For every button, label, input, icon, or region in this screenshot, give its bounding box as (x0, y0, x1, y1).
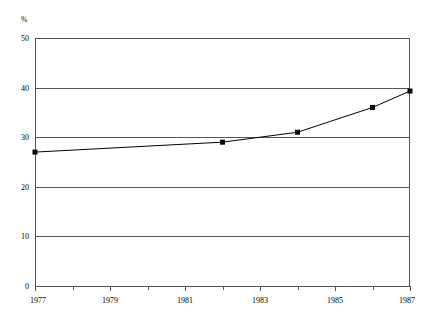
x-tick-label-1979: 1979 (102, 296, 118, 305)
y-tick-label-50: 50 (21, 34, 29, 43)
x-tick-label-1981: 1981 (177, 296, 193, 305)
line-chart: % 01020304050 197719791981198319851987 (0, 0, 432, 320)
y-tick-label-40: 40 (21, 84, 29, 93)
data-point-1984 (295, 130, 300, 135)
y-tick-label-20: 20 (21, 183, 29, 192)
data-point-1977 (33, 150, 38, 155)
y-axis-unit-label: % (21, 15, 27, 24)
y-tick-label-10: 10 (21, 232, 29, 241)
x-tick-label-1987: 1987 (399, 296, 415, 305)
x-tick-label-1977: 1977 (30, 296, 46, 305)
x-axis-tick-labels: 197719791981198319851987 (30, 296, 415, 305)
data-point-1986 (370, 105, 375, 110)
chart-canvas: % 01020304050 197719791981198319851987 (0, 0, 432, 320)
plot-background (35, 38, 410, 286)
y-axis-tick-labels: 01020304050 (21, 34, 29, 291)
data-point-1982 (220, 140, 225, 145)
x-tick-label-1983: 1983 (252, 296, 268, 305)
data-point-1987 (408, 89, 413, 94)
y-tick-label-30: 30 (21, 133, 29, 142)
y-tick-label-0: 0 (25, 282, 29, 291)
x-tick-label-1985: 1985 (327, 296, 343, 305)
